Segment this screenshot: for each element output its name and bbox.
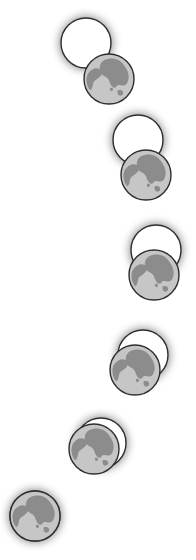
eclipse-phase-1 [59, 16, 134, 104]
eclipse-phase-3 [129, 223, 183, 300]
moon-disc [84, 54, 134, 104]
eclipse-illustration [0, 0, 196, 560]
eclipse-sequence [0, 0, 196, 560]
eclipse-phase-2 [111, 113, 171, 200]
eclipse-phase-6 [8, 489, 62, 543]
eclipse-phase-4 [110, 328, 170, 395]
eclipse-phase-5 [69, 416, 128, 474]
moon-disc [110, 345, 160, 395]
moon-disc [129, 250, 179, 300]
moon-disc [121, 150, 171, 200]
moon-disc [10, 491, 60, 541]
moon-disc [69, 424, 119, 474]
